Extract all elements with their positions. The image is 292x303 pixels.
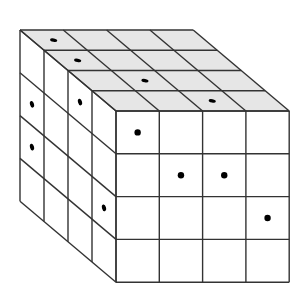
- cube-svg: [0, 0, 292, 303]
- front-dot: [178, 172, 184, 178]
- front-dot: [134, 129, 140, 135]
- front-dot: [221, 172, 227, 178]
- cube-faces: [20, 30, 289, 282]
- front-dot: [264, 215, 270, 221]
- cube-diagram: [0, 0, 292, 303]
